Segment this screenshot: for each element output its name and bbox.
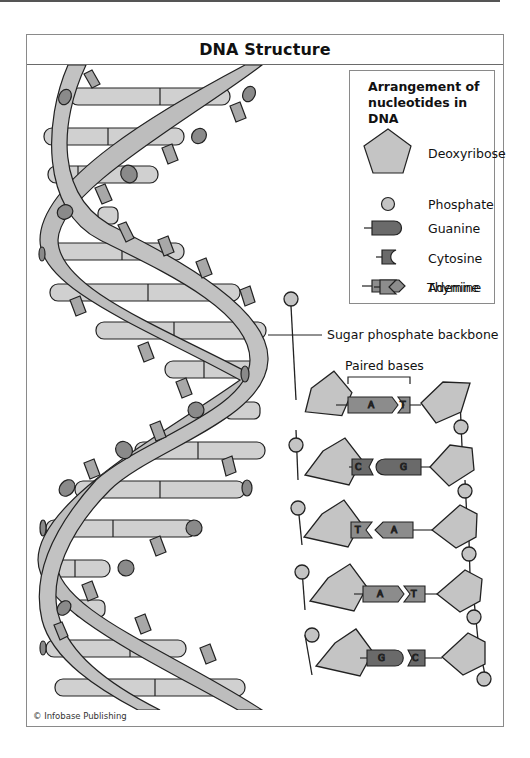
guanine-rounded-block-icon: [364, 221, 402, 235]
cytosine-notched-block-icon: [376, 250, 396, 264]
ladder-base-pairs: A T C G T A A T G C: [336, 397, 442, 666]
paired-bases-label: Paired bases: [345, 358, 424, 373]
paired-bases-bracket: [348, 377, 410, 384]
legend-label-cytosine: Cytosine: [428, 251, 482, 266]
ladder-right-backbone: [421, 382, 491, 686]
legend-label-guanine: Guanine: [428, 221, 480, 236]
svg-text:G: G: [378, 653, 385, 663]
svg-text:C: C: [355, 462, 361, 472]
helix-back-strand: [38, 65, 262, 710]
copyright-credit: © Infobase Publishing: [33, 711, 127, 721]
legend-label-deoxyribose: Deoxyribose: [428, 146, 506, 161]
legend-label-thymine: Thymine: [427, 280, 481, 295]
thymine-v-notch-block-icon: [374, 280, 396, 294]
double-helix: [38, 65, 268, 710]
svg-text:T: T: [354, 525, 361, 535]
pentagon-icon: [364, 129, 411, 173]
svg-text:T: T: [399, 400, 406, 410]
backbone-label: Sugar phosphate backbone: [327, 327, 499, 342]
ladder-left-backbone: [284, 292, 373, 676]
circle-icon: [382, 198, 395, 211]
svg-text:A: A: [377, 589, 384, 599]
svg-text:A: A: [391, 525, 398, 535]
legend-label-phosphate: Phosphate: [428, 197, 494, 212]
svg-text:T: T: [410, 589, 417, 599]
svg-text:G: G: [400, 462, 407, 472]
svg-text:A: A: [368, 400, 375, 410]
svg-text:C: C: [412, 653, 418, 663]
